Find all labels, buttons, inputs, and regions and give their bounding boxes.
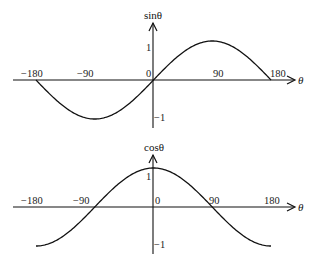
cos-tick-180: 180	[264, 195, 280, 206]
sin-chart: sinθ θ −180 −90 0 90 180 1 −1	[13, 9, 304, 128]
sin-tick-90: 90	[213, 68, 224, 79]
sin-y-label: sinθ	[144, 9, 162, 21]
cos-tick-m90: −90	[73, 195, 89, 206]
cos-tick-m180: −180	[21, 195, 43, 206]
cos-x-label: θ	[298, 201, 304, 213]
cos-tick-0: 0	[155, 195, 160, 206]
cos-tick-ym1: −1	[154, 239, 165, 250]
sin-tick-180: 180	[270, 68, 286, 79]
sin-tick-m180: −180	[21, 68, 43, 79]
cos-tick-90: 90	[209, 195, 220, 206]
sin-tick-y1: 1	[146, 42, 151, 53]
sin-tick-0: 0	[146, 68, 151, 79]
trig-graphs: sinθ θ −180 −90 0 90 180 1 −1 cosθ θ −18…	[0, 0, 316, 264]
sin-x-label: θ	[298, 74, 304, 86]
cos-tick-y1: 1	[146, 171, 151, 182]
sin-tick-m90: −90	[77, 68, 93, 79]
cos-y-label: cosθ	[144, 141, 164, 153]
sin-tick-ym1: −1	[154, 112, 165, 123]
cos-chart: cosθ θ −180 −90 0 90 180 1 −1	[13, 141, 304, 254]
